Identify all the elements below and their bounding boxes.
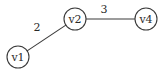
graph-svg: 23 v1v2v4 — [0, 0, 164, 75]
node-v2: v2 — [64, 8, 86, 30]
edge-weight-label: 2 — [34, 21, 41, 34]
nodes-group: v1v2v4 — [7, 8, 157, 68]
node-v4: v4 — [135, 8, 157, 30]
graph-diagram: 23 v1v2v4 — [0, 0, 164, 75]
edge-weight-label: 3 — [101, 3, 108, 16]
node-label: v2 — [67, 13, 81, 26]
node-label: v1 — [10, 51, 24, 64]
node-label: v4 — [138, 13, 152, 26]
node-v1: v1 — [7, 46, 29, 68]
